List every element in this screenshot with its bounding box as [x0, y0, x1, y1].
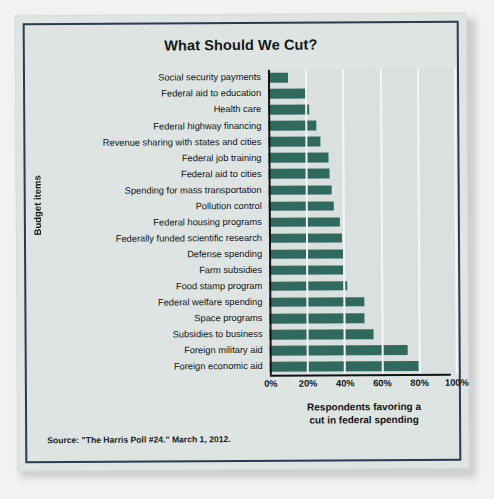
bar-cell [268, 101, 457, 118]
bar-cell [270, 341, 459, 358]
x-tick-label: 0% [264, 379, 277, 389]
bar [269, 201, 334, 211]
category-label: Federal highway financing [53, 121, 268, 132]
bar-rows: Social security paymentsFederal aid to e… [53, 69, 459, 376]
category-label: Pollution control [54, 202, 269, 213]
category-label: Foreign military aid [55, 346, 270, 357]
x-axis-title-line-2: cut in federal spending [271, 413, 457, 427]
bar-cell [269, 309, 458, 326]
bar [269, 185, 332, 195]
plot-area: Social security paymentsFederal aid to e… [53, 69, 459, 387]
x-tick-label: 20% [299, 379, 318, 389]
bar-cell [268, 85, 457, 102]
bar-cell [269, 261, 458, 278]
bar [268, 153, 328, 163]
x-tick-label: 60% [373, 378, 392, 388]
category-label: Farm subsidies [54, 266, 269, 277]
bar-cell [268, 149, 457, 166]
bar [268, 137, 320, 147]
bar [269, 217, 340, 227]
bar-cell [268, 69, 457, 86]
category-label: Health care [53, 105, 268, 116]
category-label: Social security payments [53, 73, 268, 84]
category-label: Federal welfare spending [54, 298, 269, 309]
bar-cell [269, 229, 458, 246]
bar-cell [269, 165, 458, 182]
bar [268, 89, 307, 99]
category-label: Space programs [54, 314, 269, 325]
screenshot-page: What Should We Cut? Budget items Social … [0, 0, 494, 499]
bar [269, 169, 330, 179]
bar-cell [268, 117, 457, 134]
category-label: Federal aid to cities [54, 169, 269, 180]
category-label: Federal job training [53, 153, 268, 164]
figure-inner-frame: What Should We Cut? Budget items Social … [23, 21, 462, 464]
category-label: Revenue sharing with states and cities [53, 137, 268, 148]
bar-cell [269, 197, 458, 214]
bar-cell [269, 181, 458, 198]
bar-cell [269, 293, 458, 310]
category-label: Subsidies to business [55, 330, 270, 341]
category-label: Food stamp program [54, 282, 269, 293]
bar [270, 329, 374, 339]
x-axis-line [270, 374, 451, 377]
category-label: Spending for mass transportation [54, 186, 269, 197]
category-label: Federal aid to education [53, 89, 268, 100]
x-tick-label: 80% [410, 378, 429, 388]
bar-cell [269, 245, 458, 262]
bar-cell [270, 358, 459, 375]
source-note: Source: "The Harris Poll #24." March 1, … [47, 434, 231, 445]
bar [270, 345, 408, 355]
bar-cell [269, 213, 458, 230]
bar [268, 105, 309, 115]
x-tick-label: 100% [445, 378, 469, 388]
x-tick-label: 40% [336, 378, 355, 388]
bar-cell [268, 133, 457, 150]
chart-title: What Should We Cut? [25, 36, 457, 55]
bar [268, 73, 289, 83]
x-axis-ticks: 0%20%40%60%80%100% [55, 378, 459, 396]
x-axis-title: Respondents favoring a cut in federal sp… [271, 401, 457, 427]
bar-cell [269, 277, 458, 294]
category-label: Federal housing programs [54, 218, 269, 229]
figure-card: What Should We Cut? Budget items Social … [15, 13, 470, 472]
category-label: Foreign economic aid [55, 362, 270, 373]
bar [269, 313, 364, 323]
x-axis-title-line-1: Respondents favoring a [271, 401, 457, 415]
category-label: Federally funded scientific research [54, 234, 269, 245]
bar-cell [270, 325, 459, 342]
category-label: Defense spending [54, 250, 269, 261]
bar [268, 121, 316, 131]
bar [269, 297, 364, 307]
y-axis-title: Budget items [32, 175, 50, 235]
